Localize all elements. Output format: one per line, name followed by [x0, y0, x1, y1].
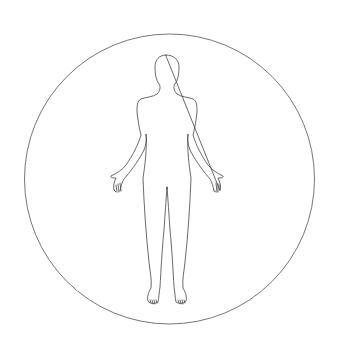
enclosing-circle	[25, 34, 315, 324]
body-diagram	[0, 0, 337, 353]
human-body-outline-icon	[111, 55, 223, 304]
body-figure-svg	[0, 0, 337, 353]
